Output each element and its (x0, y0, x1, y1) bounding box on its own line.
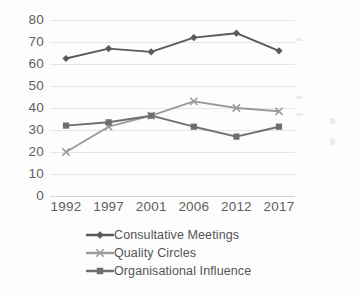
x-tick-label-2006: 2006 (178, 199, 209, 215)
legend-label: Consultative Meetings (114, 228, 239, 242)
series-2 (62, 98, 282, 156)
scan-artifact (330, 139, 335, 145)
data-point-2012 (233, 30, 240, 37)
data-point-2006 (190, 34, 197, 41)
data-point-2012 (233, 134, 239, 140)
data-point-1997 (105, 45, 112, 52)
legend-label: Quality Circles (114, 246, 196, 260)
series-3 (63, 113, 282, 140)
data-point-2006 (191, 124, 197, 130)
x-tick-label-2001: 2001 (136, 199, 167, 215)
scan-artifact (296, 38, 302, 41)
data-point-2017 (275, 47, 282, 54)
x-axis-line (50, 196, 295, 197)
y-tick-label-60: 60 (2, 57, 44, 71)
data-point-2017 (276, 124, 282, 130)
legend-item-2[interactable]: Quality Circles (86, 244, 316, 262)
series-line (66, 101, 279, 152)
series-line (66, 33, 279, 58)
series-1 (62, 30, 282, 63)
y-tick-label-0: 0 (2, 189, 44, 203)
y-tick-label-70: 70 (2, 35, 44, 49)
y-tick-label-40: 40 (2, 101, 44, 115)
scan-artifact (330, 118, 335, 124)
y-tick-label-80: 80 (2, 13, 44, 27)
plot-area (50, 20, 295, 196)
data-point-1997 (106, 119, 112, 125)
series-layer (50, 20, 295, 196)
line-chart: 80706050403020100 1992199720012006201220… (0, 0, 360, 295)
data-point-1992 (63, 123, 69, 129)
legend-marker-x-icon (86, 246, 114, 260)
data-point-1992 (62, 148, 69, 155)
legend-item-1[interactable]: Consultative Meetings (86, 226, 316, 244)
x-axis-tick-labels: 199219972001200620122017 (50, 199, 295, 219)
scan-artifact (296, 113, 303, 116)
data-point-2001 (148, 113, 154, 119)
y-tick-label-50: 50 (2, 79, 44, 93)
chart-legend: Consultative MeetingsQuality CirclesOrga… (86, 226, 316, 280)
y-tick-label-30: 30 (2, 123, 44, 137)
x-tick-label-1992: 1992 (51, 199, 82, 215)
scan-artifact (296, 96, 303, 99)
data-point-2001 (148, 48, 155, 55)
legend-marker-square-icon (86, 264, 114, 278)
x-tick-label-2012: 2012 (221, 199, 252, 215)
y-tick-label-20: 20 (2, 145, 44, 159)
x-tick-label-1997: 1997 (93, 199, 124, 215)
data-point-1992 (62, 55, 69, 62)
legend-marker-diamond-icon (86, 228, 114, 242)
x-tick-label-2017: 2017 (264, 199, 295, 215)
y-tick-label-10: 10 (2, 167, 44, 181)
y-axis-tick-labels: 80706050403020100 (0, 20, 44, 196)
legend-item-3[interactable]: Organisational Influence (86, 262, 316, 280)
legend-label: Organisational Influence (114, 264, 251, 278)
